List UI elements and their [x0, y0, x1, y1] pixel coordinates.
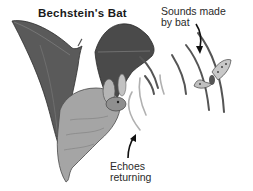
moth [194, 60, 231, 89]
diagram-title: Bechstein's Bat [38, 7, 127, 19]
echoes-label-line2: returning [110, 172, 151, 183]
echoes-label: Echoes returning [110, 161, 151, 183]
echo-waves [129, 75, 164, 130]
echolocation-diagram: Bechstein's Bat Sounds made by bat Echoe… [0, 0, 253, 191]
sounds-label: Sounds made by bat [161, 6, 226, 28]
echoes-arrow [128, 134, 136, 158]
sounds-label-line2: by bat [161, 17, 226, 28]
